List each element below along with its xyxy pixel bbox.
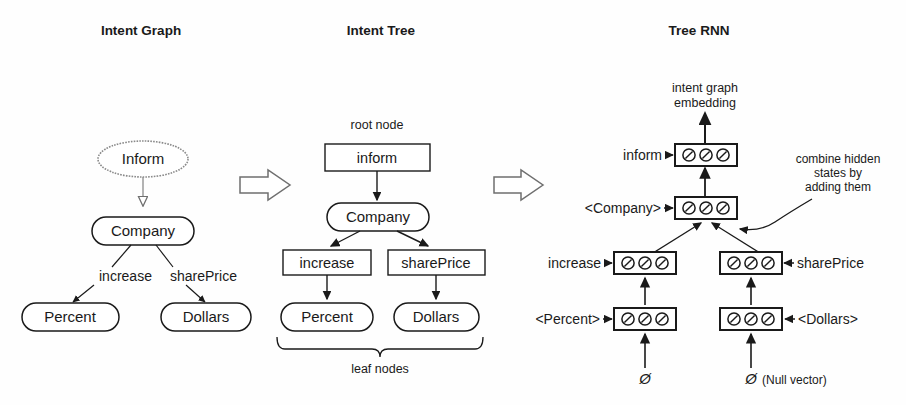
rnn-cell-percent <box>614 308 676 330</box>
rnn-input-label-shareprice: sharePrice <box>797 255 864 271</box>
intent-graph-percent-label: Percent <box>44 308 97 325</box>
rnn-input-label-percent: <Percent> <box>535 311 600 327</box>
rnn-input-label-company: <Company> <box>585 200 661 216</box>
slashed-circle-icon <box>656 257 668 269</box>
slashed-circle-icon <box>717 149 729 161</box>
edge-tree-company-shareprice <box>397 231 428 246</box>
rnn-cell-shareprice <box>720 252 782 274</box>
rnn-input-label-inform: inform <box>623 147 662 163</box>
edge-tree-company-increase <box>331 231 360 246</box>
tree-rnn-output-label-line2: embedding <box>674 96 736 110</box>
right-arrow-icon <box>240 170 290 200</box>
tree-rnn-panel: intent graph embedding inform <Company> <box>535 81 880 387</box>
diagram-svg: Intent Graph Intent Tree Tree RNN Inform… <box>0 0 906 405</box>
intent-graph-edge-label-shareprice: sharePrice <box>170 268 237 284</box>
tree-rnn-output-label-line1: intent graph <box>672 81 738 95</box>
leaf-nodes-brace <box>277 337 483 357</box>
intent-graph-edge-label-increase: increase <box>99 268 152 284</box>
intent-tree-increase-label: increase <box>300 255 355 271</box>
intent-tree-company-label: Company <box>346 208 411 225</box>
slashed-circle-icon <box>700 149 712 161</box>
slashed-circle-icon <box>728 313 740 325</box>
slashed-circle-icon <box>762 313 774 325</box>
slashed-circle-icon <box>639 313 651 325</box>
intent-tree-panel: root node inform Company increase shareP… <box>277 118 485 376</box>
edge-company-increase <box>112 245 131 267</box>
slashed-circle-icon <box>745 257 757 269</box>
null-vector-symbol-left: Ø <box>638 370 652 387</box>
rnn-cell-increase <box>614 252 676 274</box>
edge-company-shareprice <box>156 245 173 267</box>
panel-title-intent-tree: Intent Tree <box>347 23 416 38</box>
arrow-shareprice-dollars <box>186 285 205 302</box>
slashed-circle-icon <box>622 257 634 269</box>
combine-annotation-line3: adding them <box>805 180 871 194</box>
combine-annotation-line2: states by <box>814 166 862 180</box>
rnn-cell-dollars <box>720 308 782 330</box>
slashed-circle-icon <box>683 202 695 214</box>
slashed-circle-icon <box>656 313 668 325</box>
slashed-circle-icon <box>622 313 634 325</box>
null-vector-symbol-right: Ø <box>744 370 758 387</box>
annotation-pointer-curve <box>740 199 812 230</box>
slashed-circle-icon <box>639 257 651 269</box>
rnn-input-label-increase: increase <box>548 255 601 271</box>
slashed-circle-icon <box>700 202 712 214</box>
slashed-circle-icon <box>728 257 740 269</box>
intent-tree-dollars-label: Dollars <box>413 308 460 325</box>
slashed-circle-icon <box>745 313 757 325</box>
transition-arrow-tree-to-rnn <box>494 170 543 200</box>
intent-tree-shareprice-label: sharePrice <box>401 255 470 271</box>
transition-arrow-graph-to-tree <box>240 170 290 200</box>
slashed-circle-icon <box>683 149 695 161</box>
intent-tree-leaf-caption: leaf nodes <box>351 362 409 376</box>
rnn-cell-company <box>675 197 737 219</box>
arrow-increase-percent <box>73 285 94 302</box>
slashed-circle-icon <box>717 202 729 214</box>
intent-tree-root-caption: root node <box>351 118 404 132</box>
slashed-circle-icon <box>762 257 774 269</box>
figure-canvas: Intent Graph Intent Tree Tree RNN Inform… <box>0 0 906 405</box>
intent-graph-panel: Inform Company increase sharePrice Perce… <box>22 141 251 331</box>
panel-title-tree-rnn: Tree RNN <box>669 23 730 38</box>
intent-graph-dollars-label: Dollars <box>183 308 230 325</box>
intent-graph-root-label: Inform <box>122 150 165 167</box>
rnn-cell-inform <box>675 144 737 166</box>
combine-annotation-line1: combine hidden <box>796 152 881 166</box>
panel-title-intent-graph: Intent Graph <box>101 23 181 38</box>
intent-tree-percent-label: Percent <box>301 308 354 325</box>
rnn-input-label-dollars: <Dollars> <box>798 311 858 327</box>
right-arrow-icon <box>494 170 543 200</box>
intent-graph-company-label: Company <box>111 222 176 239</box>
null-vector-caption: (Null vector) <box>762 373 827 387</box>
intent-tree-root-label: inform <box>357 150 397 166</box>
